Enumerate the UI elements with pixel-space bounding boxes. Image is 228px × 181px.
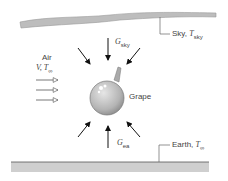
sky-label: Sky, Tsky: [172, 29, 203, 40]
sky-leader-line: [160, 17, 170, 34]
earth-label: Earth, T∞: [172, 140, 204, 151]
earth-leader-line: [159, 145, 170, 162]
grape-icon: [90, 81, 124, 115]
g-ea-label: Gea: [117, 138, 129, 149]
air-variables-label: V, T∞: [36, 63, 53, 74]
earth-band: [11, 162, 209, 172]
earth-radiation-arrows: [78, 122, 140, 148]
grape-label: Grape: [129, 92, 151, 101]
air-label: Air: [42, 53, 52, 62]
grape-stem: [114, 67, 121, 82]
g-sky-label: Gsky: [115, 37, 130, 48]
sky-band: [20, 12, 216, 28]
air-flow-arrows: [36, 80, 58, 100]
grape-radiation-diagram: [0, 0, 228, 181]
sky-radiation-arrows: [78, 38, 140, 64]
